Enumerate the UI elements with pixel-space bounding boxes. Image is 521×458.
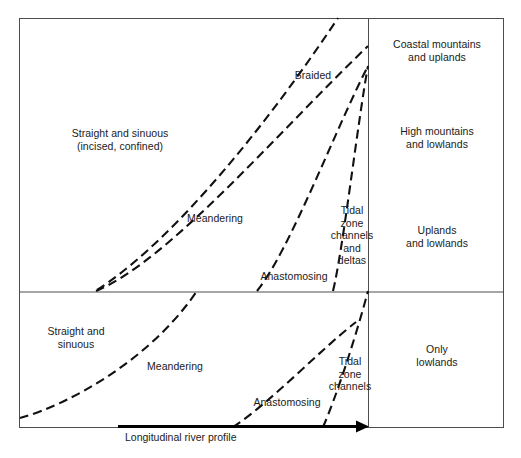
label-tidal-zone-channels: Tidal zone channels xyxy=(322,355,378,393)
label-meandering-upper: Meandering xyxy=(170,212,260,225)
longitudinal-arrow-head xyxy=(356,421,369,433)
curve-upper-straight-meandering-a xyxy=(97,18,338,290)
label-high-mountains-lowlands: High mountains and lowlands xyxy=(373,125,501,150)
label-meandering-lower: Meandering xyxy=(130,360,220,373)
label-anastomosing-lower: Anastomosing xyxy=(241,396,333,409)
label-uplands-lowlands: Uplands and lowlands xyxy=(373,224,501,249)
label-coastal-mountains-uplands: Coastal mountains and uplands xyxy=(373,38,501,63)
river-pattern-diagram: Straight and sinuous (incised, confined)… xyxy=(0,0,521,458)
axis-label-longitudinal-river-profile: Longitudinal river profile xyxy=(125,431,236,444)
label-tidal-zone-channels-deltas: Tidal zone channels and deltas xyxy=(324,204,380,267)
label-only-lowlands: Only lowlands xyxy=(373,343,501,368)
label-braided: Braided xyxy=(273,69,353,82)
label-anastomosing-upper: Anastomosing xyxy=(248,270,340,283)
label-straight-sinuous-lower: Straight and sinuous xyxy=(21,325,131,350)
curve-lower-straight-meandering xyxy=(20,291,197,418)
label-straight-sinuous-incised: Straight and sinuous (incised, confined) xyxy=(35,127,205,152)
